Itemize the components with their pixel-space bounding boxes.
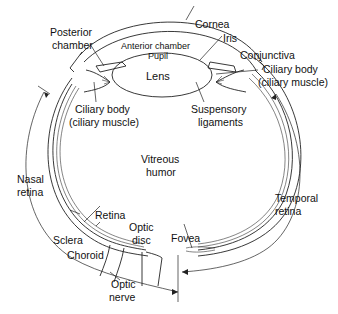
lens-label: Lens [146,70,170,82]
conjunctiva-label: Conjunctiva [240,49,295,61]
fovea-label: Fovea [171,232,200,244]
suspensory-ligaments-label: Suspensoryligaments [191,103,247,128]
conjunctiva-left [70,52,82,72]
posterior-chamber-label: Posteriorchamber [50,26,93,51]
pupil-label: Pupil [148,51,168,61]
iris-label: Iris [223,32,237,44]
anterior-chamber-label: Anterior chamber [121,41,190,51]
ciliary-body-left-label: Ciliary body(ciliary muscle) [69,103,139,128]
cornea-label: Cornea [195,18,230,30]
eye-diagram: Posteriorchamber Anterior chamber Pupil … [0,0,338,314]
labels: Posteriorchamber Anterior chamber Pupil … [17,18,328,303]
sclera-label: Sclera [53,234,83,246]
retina-label: Retina [95,209,126,221]
optic-nerve-label: Opticnerve [109,278,136,303]
ciliary-body-right-label: Ciliary body(ciliary muscle) [258,63,328,88]
vitreous-humor-label: Vitreoushumor [141,153,179,178]
choroid-label: Choroid [67,249,104,261]
optic-disc-label: Opticdisc [129,221,154,246]
temporal-retina-label: Temporalretina [275,192,318,217]
nasal-retina-label: Nasalretina [17,173,44,198]
